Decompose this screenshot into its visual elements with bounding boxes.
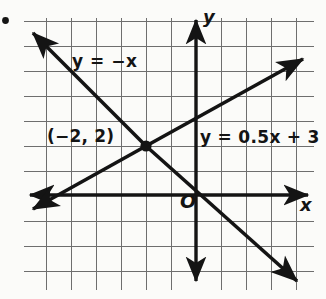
- x-axis-label: x: [300, 196, 312, 214]
- line-label-y-equals-neg-x: y = −x: [72, 53, 137, 70]
- line-label-y-equals-half-x-plus-3: y = 0.5x + 3: [200, 129, 320, 146]
- line-y-equals-half-x-plus-3-down: [33, 146, 146, 209]
- origin-label: O: [180, 192, 196, 211]
- line-y-equals-neg-x-down: [146, 146, 297, 281]
- intersection-point-label: (−2, 2): [47, 128, 114, 145]
- intersection-point-marker: [140, 140, 151, 151]
- coordinate-plane-figure: y = −x y = 0.5x + 3 (−2, 2) O x y: [0, 0, 326, 299]
- bullet-marker: [2, 17, 9, 24]
- y-axis-label: y: [203, 8, 215, 26]
- plot-layer: [0, 0, 326, 299]
